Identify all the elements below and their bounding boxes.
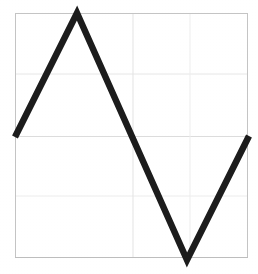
figure-canvas — [0, 0, 258, 274]
line-chart — [0, 0, 258, 274]
